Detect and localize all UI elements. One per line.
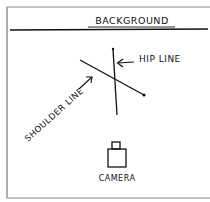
background-line xyxy=(10,29,208,30)
hip-arrow-icon xyxy=(118,62,134,63)
camera-positioning-diagram: BACKGROUND HIP LINE SHOULDER LINE CAMERA xyxy=(0,0,210,202)
camera-label: CAMERA xyxy=(99,174,136,183)
hip-line-group: HIP LINE xyxy=(112,48,181,115)
background-line-group: BACKGROUND xyxy=(10,15,208,30)
shoulder-line-label: SHOULDER LINE xyxy=(23,86,86,144)
frame xyxy=(7,7,210,198)
shoulder-arrow-icon xyxy=(79,77,92,89)
hip-line-label: HIP LINE xyxy=(139,54,181,64)
camera-icon: CAMERA xyxy=(99,142,136,183)
hip-line xyxy=(113,49,117,115)
background-label: BACKGROUND xyxy=(95,15,169,26)
shoulder-line-endpoint xyxy=(142,93,145,96)
shoulder-line-group: SHOULDER LINE xyxy=(23,60,146,143)
hip-line-endpoint xyxy=(112,48,114,50)
